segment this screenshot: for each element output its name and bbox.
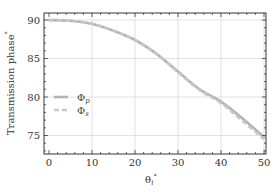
y-tick-label: 80 xyxy=(27,92,40,103)
x-tick-label: 40 xyxy=(215,157,228,168)
y-tick-label: 90 xyxy=(27,15,40,26)
y-tick-label: 85 xyxy=(27,53,40,64)
x-tick-label: 10 xyxy=(86,157,99,168)
grid-lines xyxy=(44,13,266,154)
chart: 0102030405075808590 ΦpΦs θi° Transmissio… xyxy=(0,0,279,192)
x-tick-label: 20 xyxy=(129,157,142,168)
axis-ticks xyxy=(44,13,266,154)
legend-label-phi-p: Φp xyxy=(77,92,90,105)
x-tick-label: 0 xyxy=(46,157,52,168)
y-tick-label: 75 xyxy=(27,130,40,141)
series-line-phi-s xyxy=(49,20,264,139)
series-line-phi-p xyxy=(49,20,264,137)
data-series xyxy=(49,20,264,139)
x-tick-label: 50 xyxy=(258,157,271,168)
tick-labels: 0102030405075808590 xyxy=(27,15,270,169)
legend: ΦpΦs xyxy=(54,92,90,118)
axes-frame xyxy=(44,13,266,154)
legend-label-phi-s: Φs xyxy=(77,105,89,118)
y-axis-label: Transmission phase° xyxy=(4,31,16,135)
x-axis-label: θi° xyxy=(145,173,157,187)
x-tick-label: 30 xyxy=(172,157,185,168)
